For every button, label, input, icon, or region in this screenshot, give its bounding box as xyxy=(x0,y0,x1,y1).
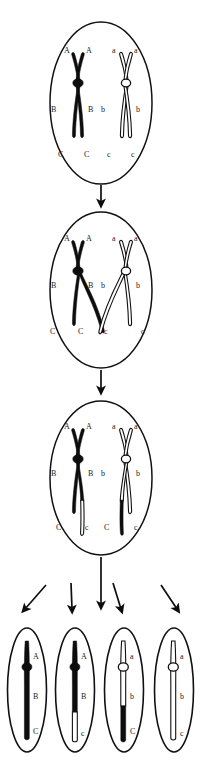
label-C: C xyxy=(104,523,109,532)
label-C: C xyxy=(84,150,89,159)
chromatid-recombinant-lower-light xyxy=(81,500,84,535)
label-A: A xyxy=(86,234,92,243)
label-C: C xyxy=(56,523,61,532)
label-A: A xyxy=(64,422,70,431)
label-b: b xyxy=(180,692,184,701)
label-b: b xyxy=(101,469,105,478)
gamete-3: a b C xyxy=(105,628,144,752)
label-A: A xyxy=(33,652,39,661)
label-B: B xyxy=(51,281,56,290)
centromere-filled xyxy=(73,455,83,463)
label-B: B xyxy=(88,105,93,114)
label-C: C xyxy=(78,327,83,336)
label-b: b xyxy=(136,281,140,290)
stage-3-cell: A A B B C c a a b b C c xyxy=(50,401,152,555)
label-c: c xyxy=(134,523,138,532)
label-c: c xyxy=(85,523,89,532)
label-A: A xyxy=(81,652,87,661)
centromere-open xyxy=(121,455,130,463)
chromatid-dark-upper xyxy=(72,641,77,712)
chromatid-dark xyxy=(24,641,29,740)
centromere-filled xyxy=(70,663,80,671)
label-A: A xyxy=(64,234,70,243)
chromatid-light xyxy=(171,641,176,740)
label-a: a xyxy=(134,46,138,55)
stage-2-cell: A A B B C C a a b b c c xyxy=(50,212,152,368)
arrow-to-gamete-3 xyxy=(113,583,121,609)
centromere-open xyxy=(118,663,128,671)
centromere-open xyxy=(121,267,130,275)
label-B: B xyxy=(51,469,56,478)
label-B: B xyxy=(81,692,86,701)
label-A: A xyxy=(86,422,92,431)
gamete-4: a b c xyxy=(155,628,194,752)
label-a: a xyxy=(134,234,138,243)
centromere-open xyxy=(121,79,130,87)
label-a: a xyxy=(112,46,116,55)
label-C: C xyxy=(58,150,63,159)
label-b: b xyxy=(101,281,105,290)
label-C: C xyxy=(130,727,135,736)
label-b: b xyxy=(136,469,140,478)
label-a: a xyxy=(180,652,184,661)
label-c: c xyxy=(180,729,184,738)
label-B: B xyxy=(33,692,38,701)
arrow-to-gamete-2 xyxy=(71,583,72,609)
label-b: b xyxy=(136,105,140,114)
label-c: c xyxy=(81,729,85,738)
label-C: C xyxy=(33,727,38,736)
chromatid-light-upper xyxy=(121,641,126,706)
centromere-open xyxy=(168,663,178,671)
label-B: B xyxy=(88,469,93,478)
gamete-1: A B C xyxy=(8,628,47,752)
label-c: c xyxy=(107,150,111,159)
chromatid-light-lower xyxy=(72,712,77,742)
centromere-filled xyxy=(73,267,83,275)
stage-1-cell: A A B B C C a a b b c c xyxy=(50,22,152,184)
label-B: B xyxy=(51,105,56,114)
arrow-to-gamete-4 xyxy=(161,585,177,609)
label-A: A xyxy=(86,46,92,55)
label-c: c xyxy=(131,150,135,159)
label-c: c xyxy=(141,327,145,336)
centromere-filled xyxy=(73,79,83,87)
label-a: a xyxy=(112,234,116,243)
arrow-to-gamete-1 xyxy=(25,585,46,609)
label-a: a xyxy=(130,652,134,661)
gamete-2: A B c xyxy=(56,628,95,752)
chromatid-recombinant-lower-dark xyxy=(120,500,123,535)
label-a: a xyxy=(134,422,138,431)
label-A: A xyxy=(64,46,70,55)
meiosis-crossing-over-diagram: A A B B C C a a b b c c xyxy=(0,0,203,765)
centromere-filled xyxy=(22,663,32,671)
label-C: C xyxy=(50,327,55,336)
label-a: a xyxy=(112,422,116,431)
chromatid-dark-lower xyxy=(121,706,126,742)
label-b: b xyxy=(101,105,105,114)
label-B: B xyxy=(88,281,93,290)
label-c: c xyxy=(104,327,108,336)
label-b: b xyxy=(130,692,134,701)
